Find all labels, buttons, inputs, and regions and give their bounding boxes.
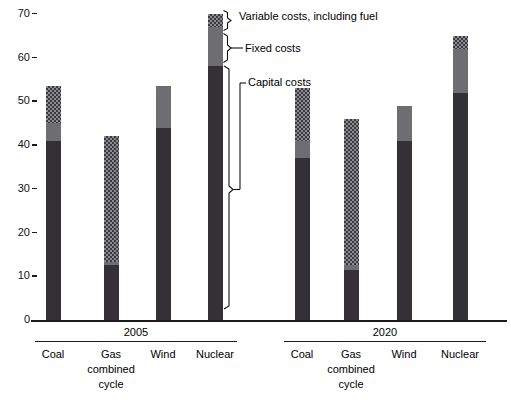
y-axis-tick-mark <box>32 188 37 189</box>
category-label-2020-nuclear: Nuclear <box>415 347 505 362</box>
bar-2005-nuclear <box>208 14 223 320</box>
bar-2005-coal <box>46 86 61 320</box>
bar-segment-capital <box>344 270 359 320</box>
group-rule-2020 <box>284 341 486 342</box>
y-axis-tick-mark <box>32 232 37 233</box>
y-axis-tick-mark <box>32 100 37 101</box>
y-axis-tick-label: 0 <box>6 313 30 325</box>
group-label-2005: 2005 <box>35 326 237 338</box>
y-axis-tick-label: 50 <box>6 94 30 106</box>
bar-segment-fixed <box>295 141 310 158</box>
bar-segment-fixed <box>344 265 359 269</box>
y-axis-tick-label: 70 <box>6 7 30 19</box>
category-label-line: cycle <box>66 377 156 392</box>
axis-baseline <box>31 320 507 322</box>
category-label-line: cycle <box>306 377 396 392</box>
category-label-line: Nuclear <box>170 347 260 362</box>
category-label-2005-nuclear: Nuclear <box>170 347 260 362</box>
category-label-line: combined <box>66 362 156 377</box>
bar-segment-capital <box>46 141 61 320</box>
y-axis-tick-mark <box>32 13 37 14</box>
y-axis-tick-label: 30 <box>6 182 30 194</box>
y-axis-tick-label: 10 <box>6 269 30 281</box>
bar-segment-variable <box>104 136 119 261</box>
bar-segment-variable <box>295 88 310 140</box>
bar-2020-wind <box>397 106 412 320</box>
bar-segment-fixed <box>46 123 61 140</box>
bar-2005-wind <box>156 86 171 320</box>
group-rule-2005 <box>35 341 237 342</box>
bar-segment-fixed <box>104 262 119 265</box>
bar-segment-variable <box>344 119 359 265</box>
callout-variable-costs: Variable costs, including fuel <box>239 10 378 22</box>
bar-segment-fixed <box>397 106 412 141</box>
bar-segment-variable <box>453 36 468 49</box>
y-axis-tick-label: 20 <box>6 226 30 238</box>
bar-segment-capital <box>453 93 468 320</box>
bar-segment-fixed <box>453 49 468 93</box>
bar-segment-capital <box>397 141 412 320</box>
category-label-line: combined <box>306 362 396 377</box>
y-axis-tick-mark <box>32 57 37 58</box>
y-axis-tick-mark <box>32 275 37 276</box>
category-label-line: Nuclear <box>415 347 505 362</box>
bar-2020-coal <box>295 88 310 320</box>
bar-2020-gas-combined-cycle <box>344 119 359 320</box>
bar-segment-capital <box>295 158 310 320</box>
bar-2005-gas-combined-cycle <box>104 136 119 320</box>
bar-segment-variable <box>208 14 223 27</box>
bar-segment-fixed <box>156 86 171 128</box>
bar-segment-capital <box>104 265 119 320</box>
bar-segment-capital <box>156 128 171 320</box>
y-axis-tick-label: 40 <box>6 138 30 150</box>
callout-capital-costs: Capital costs <box>248 76 311 88</box>
bar-2020-nuclear <box>453 36 468 320</box>
y-axis-tick-mark <box>32 144 37 145</box>
bar-segment-variable <box>46 86 61 123</box>
bar-segment-capital <box>208 66 223 320</box>
bar-segment-fixed <box>208 27 223 66</box>
group-label-2020: 2020 <box>284 326 486 338</box>
stacked-bar-chart: 706050403020100 2005CoalGascombinedcycle… <box>0 0 511 409</box>
y-axis-tick-label: 60 <box>6 51 30 63</box>
callout-fixed-costs: Fixed costs <box>245 42 301 54</box>
